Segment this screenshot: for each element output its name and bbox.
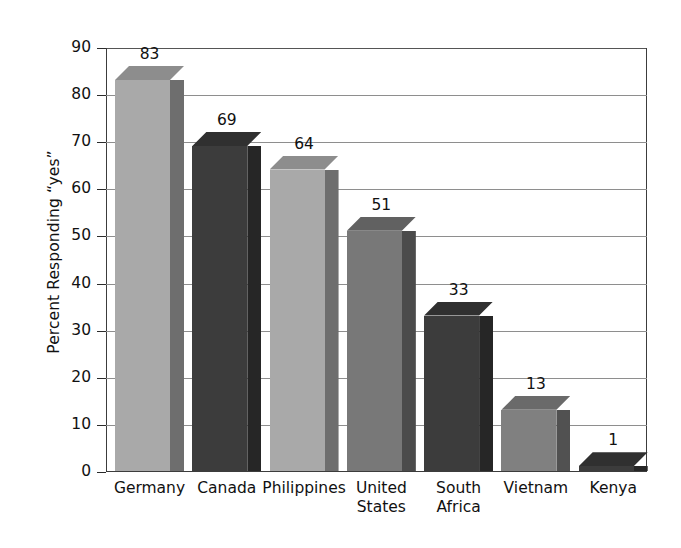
bar-front-face [115, 80, 170, 471]
bar-value-label: 1 [573, 431, 653, 449]
bar-top-face [115, 66, 184, 80]
bar-front-face [579, 466, 634, 471]
bar-value-label: 83 [110, 45, 190, 63]
y-tick-label: 70 [51, 132, 91, 150]
plot-frame-right [646, 48, 647, 472]
y-tick-label: 90 [51, 38, 91, 56]
y-tick-label: 50 [51, 226, 91, 244]
bar-front-face [501, 410, 556, 471]
bar-value-label: 33 [419, 281, 499, 299]
bar-side-face [402, 231, 416, 471]
bar-value-label: 51 [341, 196, 421, 214]
bar-top-face [501, 396, 570, 410]
gridline [106, 142, 647, 143]
bar[interactable]: 13 [501, 396, 556, 471]
y-tick-mark [97, 284, 106, 285]
bar[interactable]: 69 [192, 132, 247, 471]
bar-value-label: 13 [496, 375, 576, 393]
plot-frame-bottom [106, 471, 647, 472]
y-tick-mark [97, 472, 106, 473]
y-tick-mark [97, 95, 106, 96]
y-tick-mark [97, 142, 106, 143]
y-tick-label: 10 [51, 415, 91, 433]
bar-side-face [247, 146, 261, 471]
y-tick-label: 30 [51, 321, 91, 339]
bar-top-face [192, 132, 261, 146]
y-tick-label: 40 [51, 274, 91, 292]
bar-side-face [556, 410, 570, 471]
y-tick-label: 0 [51, 462, 91, 480]
bar-value-label: 69 [187, 111, 267, 129]
y-tick-label: 60 [51, 179, 91, 197]
bar[interactable]: 64 [270, 156, 325, 472]
bar-front-face [424, 316, 479, 471]
x-category-label: Kenya [553, 479, 673, 498]
bar-front-face [347, 231, 402, 471]
bar-side-face [479, 316, 493, 471]
y-tick-label: 20 [51, 368, 91, 386]
bar-top-face [579, 452, 648, 466]
gridline [106, 95, 647, 96]
plot-area: 8369645133131 [106, 48, 647, 472]
bar[interactable]: 83 [115, 66, 170, 471]
bar[interactable]: 51 [347, 217, 402, 471]
y-tick-mark [97, 425, 106, 426]
y-tick-label: 80 [51, 85, 91, 103]
gridline [106, 189, 647, 190]
y-tick-mark [97, 48, 106, 49]
bar-side-face [170, 80, 184, 471]
plot-frame-left [106, 48, 107, 472]
bar-front-face [192, 146, 247, 471]
bar-front-face [270, 170, 325, 472]
bar-top-face [424, 302, 493, 316]
bar[interactable]: 1 [579, 452, 634, 471]
y-tick-mark [97, 378, 106, 379]
y-tick-mark [97, 189, 106, 190]
y-tick-mark [97, 331, 106, 332]
bar-side-face [325, 170, 339, 472]
bar-top-face [270, 156, 339, 170]
y-tick-mark [97, 236, 106, 237]
bar[interactable]: 33 [424, 302, 479, 471]
bar-value-label: 64 [264, 135, 344, 153]
bar-chart-figure: Percent Responding “yes” 908070605040302… [0, 0, 681, 548]
bar-top-face [347, 217, 416, 231]
bar-side-face [634, 466, 648, 471]
